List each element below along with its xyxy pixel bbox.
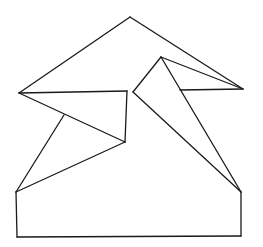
line-segment-P-R: [161, 57, 243, 89]
line-segment-P-BR: [161, 57, 241, 192]
line-segment-Q-R: [180, 89, 243, 90]
line-segment-L-A: [19, 17, 130, 93]
geometric-line-diagram: [0, 0, 263, 247]
line-segment-L-M1: [19, 91, 127, 93]
line-segment-A-R: [130, 17, 243, 89]
line-segment-BL-BL2: [16, 192, 17, 237]
line-segment-M2-P: [133, 57, 161, 92]
line-segment-M2-BR: [133, 92, 241, 192]
line-segment-BL2-BR2: [17, 236, 241, 237]
line-segment-M1-V: [125, 91, 127, 142]
line-segment-L-V: [19, 93, 125, 142]
